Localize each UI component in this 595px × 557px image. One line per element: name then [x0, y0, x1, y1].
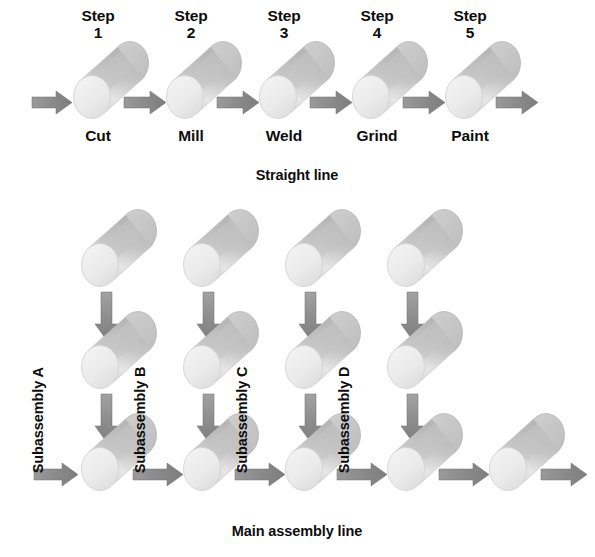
step-word: Step	[174, 7, 207, 24]
cylinder-front-face	[353, 76, 390, 119]
subassembly-b-label: Subassembly B	[133, 367, 148, 474]
step-label-3: Step3	[267, 8, 300, 42]
subassembly-b-station-1	[184, 210, 259, 287]
cylinder-front-face	[184, 346, 221, 389]
step-number: 2	[174, 25, 207, 41]
process-flow-diagram: Step1CutStep2MillStep3WeldStep4GrindStep…	[0, 0, 595, 557]
step-number: 5	[453, 25, 486, 41]
cylinder-front-face	[82, 448, 119, 491]
subassembly-d-station-1	[388, 210, 463, 287]
subassembly-c-station-1	[286, 210, 361, 287]
cylinder-front-face	[82, 346, 119, 389]
cylinder-front-face	[167, 76, 204, 119]
operation-label-4: Grind	[357, 128, 398, 144]
cylinder-front-face	[286, 448, 323, 491]
step-word: Step	[360, 7, 393, 24]
step-number: 1	[81, 25, 114, 41]
operation-label-2: Mill	[178, 128, 203, 144]
step-word: Step	[267, 7, 300, 24]
operation-label-5: Paint	[451, 128, 488, 144]
cylinder-front-face	[184, 448, 221, 491]
cylinder-front-face	[74, 76, 111, 119]
cylinder-front-face	[490, 448, 527, 491]
cylinder-front-face	[446, 76, 483, 119]
subassembly-c-label: Subassembly C	[235, 367, 250, 474]
subassembly-d-station-2	[388, 312, 463, 389]
step-word: Step	[81, 7, 114, 24]
cylinder-front-face	[260, 76, 297, 119]
subassembly-a-station-1	[82, 210, 157, 287]
cylinder-front-face	[82, 244, 119, 287]
cylinder-front-face	[388, 244, 425, 287]
cylinder-front-face	[286, 244, 323, 287]
step-number: 4	[360, 25, 393, 41]
main-arrow-d-final	[439, 463, 489, 486]
cylinder-front-face	[388, 448, 425, 491]
arrow-step3-step4	[310, 91, 352, 114]
step-label-4: Step4	[360, 8, 393, 42]
main-assembly-line-caption: Main assembly line	[232, 524, 362, 539]
step-label-5: Step5	[453, 8, 486, 42]
cylinder-front-face	[184, 244, 221, 287]
step-word: Step	[453, 7, 486, 24]
outflow-arrow	[496, 91, 538, 114]
step-label-1: Step1	[81, 8, 114, 42]
inflow-arrow	[32, 91, 72, 114]
step-label-2: Step2	[174, 8, 207, 42]
arrow-layer-back	[32, 91, 587, 486]
subassembly-d-label: Subassembly D	[337, 367, 352, 474]
main-outflow-arrow	[541, 463, 587, 486]
arrow-step2-step3	[217, 91, 259, 114]
diagram-canvas	[0, 0, 595, 557]
subassembly-a-label: Subassembly A	[31, 367, 46, 473]
operation-label-1: Cut	[85, 128, 111, 144]
cylinder-front-face	[286, 346, 323, 389]
cylinder-front-face	[388, 346, 425, 389]
straight-line-caption: Straight line	[256, 168, 339, 183]
arrow-step4-step5	[403, 91, 445, 114]
arrow-step1-step2	[124, 91, 166, 114]
step-number: 3	[267, 25, 300, 41]
operation-label-3: Weld	[266, 128, 302, 144]
